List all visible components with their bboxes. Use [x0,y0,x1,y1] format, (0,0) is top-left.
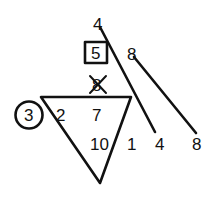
circled-number: 3 [24,106,33,125]
triangle-outside-right-number: 1 [127,135,136,154]
line1-end-label: 4 [155,135,164,154]
triangle-number-bottom-center: 10 [90,135,109,154]
line2-end-label: 8 [192,135,201,154]
triangle-number-top-left: 2 [56,106,65,125]
line1-start-label: 4 [93,15,102,34]
triangle-number-top-center: 7 [92,106,101,125]
boxed-number: 5 [91,44,100,63]
diagonal-line-8-to-8 [134,57,196,133]
line2-start-label: 8 [127,45,136,64]
inverted-triangle [41,97,131,183]
math-puzzle-diagram: 4 4 8 8 5 8 2 7 10 1 3 [0,0,213,198]
